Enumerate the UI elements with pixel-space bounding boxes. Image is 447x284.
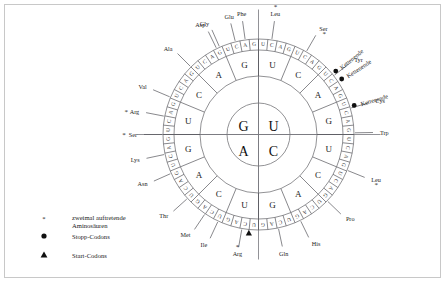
ring3-base-21: C: [333, 178, 340, 185]
ring3-base-9: C: [328, 77, 335, 84]
ring3-base-49: C: [165, 119, 172, 124]
amino-acid-label-leu-1: Leu: [271, 10, 281, 17]
ring2-base-4: U: [325, 144, 332, 154]
amino-acid-label-ile-11: Ile: [201, 241, 208, 248]
legend-label-0: zweimal auftretende: [72, 214, 126, 221]
duplicate-marker-asterisk-10: *: [236, 243, 240, 251]
ring3-base-17: C: [345, 146, 352, 151]
leader-line-met-12: [194, 215, 204, 230]
ring3-base-2: A: [278, 43, 283, 50]
ring2-divider-15: [226, 56, 236, 80]
ring3-divider-15: [343, 125, 354, 126]
legend-triangle-icon: [41, 252, 48, 258]
legend-label-1: Stopp-Codons: [72, 233, 110, 240]
leader-line-gln-9: [279, 229, 283, 247]
ring3-base-48: U: [165, 128, 171, 132]
leader-line-glu-21: [231, 23, 235, 40]
ring2-base-8: U: [241, 200, 248, 210]
ring3-divider-49: [163, 125, 174, 126]
ring3-base-27: G: [294, 213, 300, 220]
ring3-base-16: U: [346, 137, 352, 141]
ring3-divider-34: [240, 217, 242, 228]
ring3-base-38: A: [201, 204, 208, 211]
ring3-base-29: C: [278, 219, 283, 226]
ring3-base-43: G: [173, 170, 180, 176]
amino-acid-label-met-12: Met: [181, 231, 191, 238]
ring3-divider-18: [341, 151, 352, 153]
leader-line-arg-17: [146, 113, 164, 116]
ring3-divider-2: [275, 41, 277, 52]
legend-asterisk-icon: *: [42, 215, 45, 222]
ring3-base-62: A: [243, 41, 248, 48]
ring3-base-47: G: [165, 137, 171, 141]
duplicate-marker-asterisk-1: *: [274, 3, 278, 11]
ring3-base-52: U: [173, 93, 180, 99]
ring3-divider-51: [167, 107, 178, 110]
ring3-base-36: U: [217, 213, 223, 220]
ring3-base-0: U: [261, 41, 265, 47]
amino-acid-label-gln-9: Gln: [279, 250, 288, 257]
ring3-base-60: U: [225, 46, 231, 53]
ring3-divider-35: [231, 215, 234, 226]
ring2-base-3: G: [325, 116, 332, 126]
duplicate-marker-asterisk-2: *: [323, 30, 327, 38]
wheel-svg: UCAGUCAGUCAGUCAGUCAGUCAGUCAGUCAGUCAGUCAG…: [0, 0, 447, 284]
leader-line-leu-1: [272, 21, 275, 39]
ring3-base-51: G: [170, 101, 177, 107]
leader-line-phe-0: [243, 21, 246, 39]
ring3-base-50: A: [167, 110, 174, 115]
leader-line-gly-22: [212, 30, 219, 46]
legend-label-2: Start-Codons: [72, 252, 107, 259]
ring2-base-5: C: [315, 170, 321, 180]
amino-acid-label-arg-10: Arg: [233, 250, 243, 257]
ring3-divider-30: [275, 217, 277, 228]
ring3-base-31: G: [261, 222, 265, 228]
ring2-base-1: C: [295, 70, 301, 80]
ring3-divider-19: [339, 159, 350, 162]
ring3-divider-1: [267, 39, 268, 50]
leader-line-leu-6: [348, 171, 365, 178]
stop-codon-dot-2: [339, 77, 344, 82]
leader-line-val-18: [153, 90, 170, 97]
ring3-base-1: C: [270, 41, 275, 48]
legend: *zweimal auftretendeAminosäurenStopp-Cod…: [41, 214, 126, 259]
ring3-base-56: U: [194, 64, 201, 71]
ring3-base-42: A: [177, 178, 184, 185]
ring3-base-24: U: [316, 198, 323, 205]
ring3-base-63: G: [252, 41, 256, 47]
ring3-base-55: G: [188, 70, 195, 77]
ring3-divider-33: [249, 219, 250, 230]
ring3-base-34: A: [234, 219, 239, 226]
leader-line-asn-14: [154, 174, 170, 181]
ring2-base-13: C: [196, 90, 202, 100]
ring3-base-61: C: [234, 43, 239, 50]
ring3-divider-31: [267, 219, 268, 230]
ring2-base-6: A: [295, 189, 302, 199]
ring2-base-7: G: [269, 200, 276, 210]
ring2-base-15: G: [241, 60, 248, 70]
stop-codon-label-3: Kettenende: [360, 92, 389, 107]
ring3-base-22: A: [328, 185, 335, 192]
ring3-base-35: G: [225, 216, 231, 223]
stop-codon-dot-3: [352, 103, 357, 108]
leader-line-pro-7: [328, 202, 341, 215]
ring3-base-12: U: [340, 101, 347, 107]
leader-line-ala-19: [178, 54, 191, 67]
ring2-divider-1: [281, 56, 291, 80]
ring2-divider-3: [313, 102, 337, 112]
center-base-bottom-left: A: [238, 144, 249, 159]
ring3-divider-46: [165, 151, 176, 153]
ring3-base-39: G: [194, 198, 201, 205]
ring3-divider-3: [283, 43, 286, 54]
ring3-base-8: U: [322, 70, 329, 77]
legend-label-0-line2: Aminosäuren: [72, 222, 108, 229]
ring3-base-32: U: [252, 222, 256, 228]
amino-acid-label-his-8: His: [312, 240, 321, 247]
leader-line-lys-15: [147, 155, 165, 159]
ring3-base-7: G: [316, 64, 323, 71]
ring2-base-2: A: [315, 90, 322, 100]
ring3-base-25: C: [309, 204, 316, 211]
ring3-base-41: C: [182, 185, 189, 192]
leader-line-thr-13: [173, 199, 186, 211]
ring3-base-20: U: [337, 170, 344, 176]
